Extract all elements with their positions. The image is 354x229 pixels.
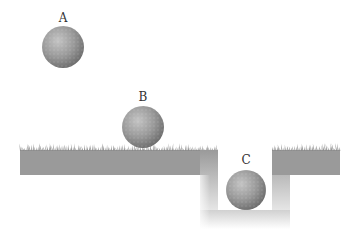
grass-blade (103, 143, 105, 151)
grass-blade (55, 146, 56, 151)
grass-blade (63, 145, 64, 151)
grass-blade (339, 147, 340, 151)
grass-blade (70, 147, 71, 151)
grass-blade (326, 143, 328, 151)
grass-blade (166, 146, 167, 151)
grass-blade (322, 145, 323, 151)
grass-blade (130, 147, 131, 151)
grass-blade (148, 148, 149, 152)
label-b: B (139, 90, 148, 104)
grass-blade (110, 148, 111, 151)
ball-a: A (42, 11, 84, 68)
grass-blade (34, 147, 35, 151)
ball-b: B (122, 90, 164, 148)
grass-blade (19, 143, 21, 151)
grass-blade (170, 145, 171, 151)
grass-blade (132, 145, 133, 151)
grass-blade (111, 145, 112, 151)
grass-blade (62, 146, 63, 151)
grass-blade (73, 147, 74, 151)
diagram-canvas: A B C (0, 0, 354, 229)
grass-blade (299, 146, 300, 151)
grass-blade (122, 145, 123, 151)
grass-blade (105, 147, 106, 151)
grass-blade (310, 144, 311, 151)
grass-blade (108, 146, 109, 151)
grass-blade (335, 143, 337, 151)
grass-blade (126, 148, 127, 151)
grass-blade (161, 148, 162, 151)
grass-blade (74, 144, 75, 151)
grass-blade (162, 147, 163, 151)
grass-blade (127, 148, 128, 151)
grass-blade (285, 145, 286, 151)
grass-blade (58, 144, 59, 151)
grass-blade (178, 143, 179, 151)
grass-blade (185, 145, 186, 151)
ball-c: C (226, 153, 266, 210)
grass-blade (118, 146, 119, 151)
grass-blade (26, 144, 27, 151)
grass-blade (281, 143, 283, 151)
grass-blade (312, 146, 313, 151)
grass-blade (50, 143, 52, 151)
grass-blade (307, 148, 308, 151)
grass-blade (121, 146, 122, 151)
grass-blade (78, 144, 79, 151)
grass-blade (46, 144, 48, 151)
grass-blade (277, 147, 278, 152)
grass-blade (272, 147, 273, 151)
grass-blade (36, 147, 37, 151)
grass-blade (102, 144, 103, 152)
grass-blade (22, 147, 23, 152)
grass-blade (331, 143, 333, 151)
grass-blade (337, 143, 339, 151)
grass-blade (309, 145, 310, 152)
grass-blade (315, 146, 316, 151)
grass-blade (188, 144, 189, 151)
grass-blade (196, 148, 197, 151)
grass-blade (275, 146, 276, 151)
grass-blade (304, 147, 305, 152)
label-a: A (58, 11, 68, 25)
grass-blade (65, 145, 66, 151)
grass-blade (313, 144, 315, 151)
grass-blade (89, 146, 90, 151)
grass-blade (297, 144, 299, 151)
grass-blade (296, 146, 297, 151)
grass-blade (124, 144, 125, 151)
grass-blade (49, 146, 50, 151)
grass-blade (175, 147, 176, 151)
ground-right (272, 143, 340, 175)
grass-blade (169, 143, 170, 151)
ground-left (19, 143, 218, 175)
grass-blade (38, 146, 39, 151)
grass-blade (278, 144, 280, 151)
grass-blade (53, 144, 55, 151)
grass-blade (283, 147, 284, 151)
label-c: C (241, 153, 250, 167)
grass-blade (100, 146, 101, 151)
grass-blade (86, 147, 87, 151)
grass-blade (274, 145, 275, 151)
grass-blade (330, 146, 331, 151)
grass-blade (194, 146, 195, 151)
grass-blade (57, 145, 58, 151)
grass-blade (33, 143, 34, 151)
grass-blade (306, 144, 307, 151)
grass-blade (71, 143, 72, 151)
grass-blade (66, 146, 67, 151)
grass-blade (294, 146, 295, 151)
grass-blade (119, 145, 120, 151)
grass-blade (164, 146, 165, 151)
grass-blade (31, 145, 32, 151)
grass-blade (172, 143, 173, 151)
grass-blade (106, 145, 107, 151)
grass-blade (92, 144, 93, 151)
grass-left (19, 143, 218, 151)
grass-right (272, 143, 340, 151)
grass-blade (94, 144, 95, 151)
grass-blade (186, 145, 187, 151)
grass-blade (154, 144, 155, 151)
grass-blade (198, 147, 199, 151)
